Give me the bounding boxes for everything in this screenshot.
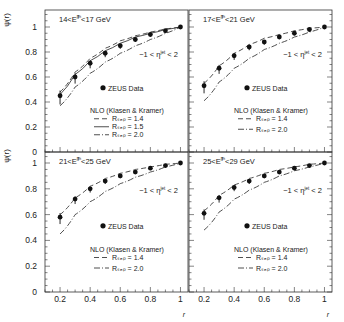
data-point [178, 25, 183, 30]
y-tick-label: 0.8 [25, 184, 37, 194]
data-point [292, 166, 297, 171]
data-point [133, 170, 138, 175]
nlo-curve-dashdot [60, 27, 180, 106]
eta-range-label: −1 < ηjet < 2 [283, 186, 322, 195]
legend-data-marker [244, 85, 249, 90]
y-tick-label: 0.4 [25, 235, 37, 245]
eta-range-label: −1 < ηjet < 2 [139, 186, 178, 195]
data-point [88, 186, 93, 191]
data-point [217, 66, 222, 71]
legend-data-marker [244, 223, 249, 228]
y-tick-label: 0 [32, 287, 37, 297]
data-point [148, 32, 153, 37]
data-point [58, 215, 63, 220]
data-point [202, 211, 207, 216]
legend-data-label: ZEUS Data [252, 85, 288, 92]
data-point [118, 174, 123, 179]
legend-entry-label: Rₛₑₚ = 1.4 [256, 254, 287, 261]
data-point [307, 163, 312, 168]
y-tick-label: 0.4 [25, 97, 37, 107]
y-tick-label: 0.2 [25, 261, 37, 271]
y-tick-label: 1 [32, 22, 37, 32]
y-tick-label: 0.6 [25, 210, 37, 220]
data-point [148, 166, 153, 171]
panel-3: 00.20.40.60.81ψ(r)0.20.40.60.81r21<ETjet… [2, 149, 188, 318]
legend-entry-label: Rₛₑₚ = 2.0 [256, 126, 287, 133]
data-point [262, 174, 267, 179]
data-point [133, 37, 138, 42]
x-tick-label: 0.2 [198, 294, 210, 304]
legend-nlo-title: NLO (Klasen & Kramer) [234, 107, 308, 115]
data-point [322, 25, 327, 30]
legend-entry-label: Rₛₑₚ = 1.4 [112, 115, 143, 122]
eta-range-label: −1 < ηjet < 2 [139, 50, 178, 59]
panel-1: 00.20.40.60.81ψ(r)14<ETjet<17 GeV−1 < ηj… [2, 10, 188, 157]
panel-title: 14<ETjet<17 GeV [59, 14, 111, 24]
panel-title: 21<ETjet<25 GeV [59, 156, 111, 166]
data-point [217, 195, 222, 200]
legend-nlo-title: NLO (Klasen & Kramer) [90, 107, 164, 115]
x-tick-label: 0.2 [54, 294, 66, 304]
x-tick-label: 0.4 [84, 294, 96, 304]
data-point [292, 31, 297, 36]
y-tick-label: 0.2 [25, 122, 37, 132]
y-tick-label: 0 [32, 147, 37, 157]
legend-data-label: ZEUS Data [108, 223, 144, 230]
data-point [262, 40, 267, 45]
data-point [307, 27, 312, 32]
x-tick-label: 1 [322, 294, 327, 304]
nlo-curve-dashed [60, 27, 180, 92]
data-point [73, 75, 78, 80]
data-point [277, 170, 282, 175]
x-tick-label: 0.8 [288, 294, 300, 304]
data-point [103, 51, 108, 56]
y-tick-label: 0.6 [25, 72, 37, 82]
x-tick-label: 1 [178, 294, 183, 304]
panel-4: 0.20.40.60.81r25<ETjet<29 GeV−1 < ηjet <… [189, 152, 332, 318]
data-point [232, 185, 237, 190]
y-tick-label: 1 [32, 158, 37, 168]
eta-range-label: −1 < ηjet < 2 [283, 50, 322, 59]
x-tick-label: 0.6 [258, 294, 270, 304]
legend-data-label: ZEUS Data [252, 223, 288, 230]
jet-shape-figure: 00.20.40.60.81ψ(r)14<ETjet<17 GeV−1 < ηj… [0, 0, 344, 322]
legend-entry-label: Rₛₑₚ = 1.4 [256, 115, 287, 122]
data-point [163, 163, 168, 168]
data-point [322, 161, 327, 166]
x-axis-label: r [183, 311, 186, 318]
nlo-curve-dashed [204, 27, 324, 83]
legend-entry-label: Rₛₑₚ = 2.0 [112, 131, 143, 138]
data-point [202, 83, 207, 88]
legend-entry-label: Rₛₑₚ = 2.0 [112, 265, 143, 272]
data-point [118, 43, 123, 48]
data-point [73, 197, 78, 202]
x-tick-label: 0.6 [114, 294, 126, 304]
data-point [232, 53, 237, 58]
legend-data-label: ZEUS Data [108, 85, 144, 92]
x-tick-label: 0.4 [228, 294, 240, 304]
panel-title: 25<ETjet<29 GeV [203, 156, 255, 166]
data-point [247, 45, 252, 50]
legend-data-marker [100, 223, 105, 228]
legend-entry-label: Rₛₑₚ = 1.4 [112, 254, 143, 261]
legend-nlo-title: NLO (Klasen & Kramer) [90, 246, 164, 254]
data-point [103, 179, 108, 184]
data-point [163, 28, 168, 33]
y-tick-label: 0.8 [25, 47, 37, 57]
data-point [58, 93, 63, 98]
data-point [277, 35, 282, 40]
legend-entry-label: Rₛₑₚ = 1.5 [112, 123, 143, 130]
data-point [88, 61, 93, 66]
panel-2: 17<ETjet<21 GeV−1 < ηjet < 2ZEUS DataNLO… [189, 10, 332, 152]
x-axis-label: r [327, 311, 330, 318]
y-axis-label: ψ(r) [2, 13, 11, 27]
legend-data-marker [100, 85, 105, 90]
chart-canvas: 00.20.40.60.81ψ(r)14<ETjet<17 GeV−1 < ηj… [0, 0, 344, 322]
legend-nlo-title: NLO (Klasen & Kramer) [234, 246, 308, 254]
x-tick-label: 0.8 [144, 294, 156, 304]
y-axis-label: ψ(r) [2, 149, 11, 163]
data-point [178, 161, 183, 166]
panel-title: 17<ETjet<21 GeV [203, 14, 255, 24]
legend-entry-label: Rₛₑₚ = 2.0 [256, 265, 287, 272]
data-point [247, 179, 252, 184]
